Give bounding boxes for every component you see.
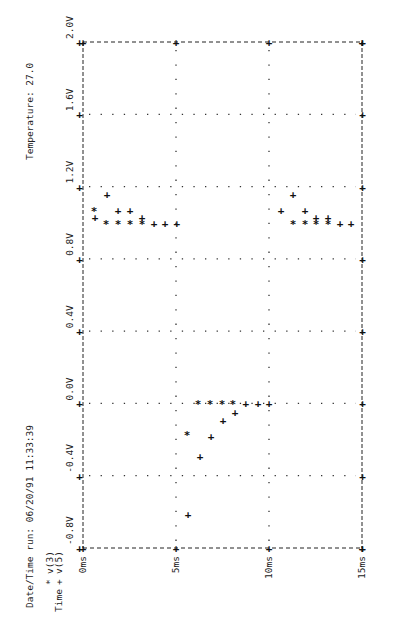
data-point-v5: + bbox=[197, 450, 204, 463]
tick-mark: + bbox=[173, 542, 180, 555]
voltage-tick-label: -0.8V bbox=[64, 516, 75, 545]
grid-lines: ++++++++++++++++++++++++ bbox=[76, 36, 366, 555]
time-tick-labels: 0ms5ms10ms15ms bbox=[77, 556, 367, 579]
tick-mark: + bbox=[76, 325, 83, 338]
time-tick-label: 0ms bbox=[77, 556, 88, 573]
tick-mark: + bbox=[359, 325, 366, 338]
data-point-v5: + bbox=[302, 204, 309, 217]
data-point-v5: + bbox=[255, 397, 262, 410]
data-point-v5: + bbox=[151, 217, 158, 230]
data-point-v5: + bbox=[266, 397, 273, 410]
voltage-tick-label: 0.4V bbox=[64, 305, 75, 328]
tick-mark: + bbox=[80, 542, 87, 555]
voltage-tick-label: 2.0V bbox=[64, 16, 75, 39]
time-tick-label: 5ms bbox=[170, 556, 181, 573]
voltage-tick-label: -0.4V bbox=[64, 444, 75, 473]
tick-mark: + bbox=[359, 36, 366, 49]
data-point-v5: + bbox=[162, 217, 169, 230]
transient-plot: ++++++++++++++++++++++++ -0.8V-0.4V0.0V0… bbox=[0, 0, 393, 628]
data-point-v5: + bbox=[290, 188, 297, 201]
data-point-v5: + bbox=[220, 414, 227, 427]
data-point-v3: * bbox=[103, 218, 110, 231]
voltage-tick-label: 1.6V bbox=[64, 88, 75, 111]
data-point-v3: * bbox=[207, 398, 214, 411]
tick-mark: + bbox=[266, 36, 273, 49]
tick-mark: + bbox=[76, 470, 83, 483]
tick-mark: + bbox=[266, 542, 273, 555]
tick-mark: + bbox=[76, 253, 83, 266]
tick-mark: + bbox=[76, 397, 83, 410]
date-time-label: Date/Time run: 06/20/91 11:33:39 bbox=[24, 425, 35, 608]
data-point-v5: + bbox=[127, 204, 134, 217]
data-point-v5: + bbox=[92, 211, 99, 224]
data-point-v5: + bbox=[313, 211, 320, 224]
data-point-v3: * bbox=[115, 218, 122, 231]
data-point-v3: * bbox=[219, 398, 226, 411]
data-point-v5: + bbox=[243, 397, 250, 410]
data-point-v5: + bbox=[115, 204, 122, 217]
data-point-v3: * bbox=[127, 218, 134, 231]
data-point-v5: + bbox=[278, 204, 285, 217]
tick-mark: + bbox=[359, 397, 366, 410]
tick-mark: + bbox=[359, 542, 366, 555]
time-tick-label: 15ms bbox=[356, 556, 367, 579]
data-point-v5: + bbox=[104, 188, 111, 201]
plot-frame bbox=[83, 42, 362, 548]
tick-mark: + bbox=[76, 181, 83, 194]
voltage-tick-label: 1.2V bbox=[64, 160, 75, 183]
data-point-v5: + bbox=[325, 211, 332, 224]
data-point-v3: * bbox=[195, 398, 202, 411]
data-point-v5: + bbox=[232, 406, 239, 419]
data-point-v3: * bbox=[290, 218, 297, 231]
data-point-v3: * bbox=[184, 429, 191, 442]
tick-mark: + bbox=[76, 108, 83, 121]
tick-mark: + bbox=[359, 470, 366, 483]
data-point-v5: + bbox=[348, 217, 355, 230]
voltage-tick-label: 0.0V bbox=[64, 377, 75, 400]
tick-mark: + bbox=[359, 253, 366, 266]
legend-symbol-v5: + bbox=[53, 579, 64, 585]
time-axis-title: Time bbox=[53, 589, 64, 612]
data-point-v5: + bbox=[139, 211, 146, 224]
tick-mark: + bbox=[359, 108, 366, 121]
voltage-tick-label: 0.8V bbox=[64, 233, 75, 256]
legend-label-v5: v(5) bbox=[53, 551, 64, 574]
temperature-label: Temperature: 27.0 bbox=[24, 62, 35, 160]
data-marks: **************+++++++++++++++++++++++ bbox=[91, 188, 355, 521]
data-point-v5: + bbox=[337, 217, 344, 230]
time-tick-label: 10ms bbox=[263, 556, 274, 579]
data-point-v5: + bbox=[174, 217, 181, 230]
tick-mark: + bbox=[359, 181, 366, 194]
data-point-v5: + bbox=[185, 508, 192, 521]
tick-mark: + bbox=[173, 36, 180, 49]
voltage-tick-labels: -0.8V-0.4V0.0V0.4V0.8V1.2V1.6V2.0V bbox=[64, 16, 75, 545]
data-point-v3: * bbox=[302, 218, 309, 231]
data-point-v5: + bbox=[208, 430, 215, 443]
tick-mark: + bbox=[80, 36, 87, 49]
